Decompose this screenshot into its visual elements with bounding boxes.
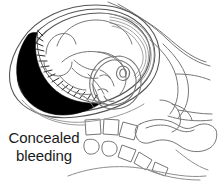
maternal-spine-vertebrae bbox=[84, 119, 168, 176]
fetus bbox=[44, 20, 132, 102]
caption-line-2: bleeding bbox=[0, 147, 88, 165]
medical-illustration-concealed-bleeding: Concealed bleeding bbox=[0, 0, 219, 190]
pelvic-bone bbox=[135, 100, 217, 152]
caption-line-1: Concealed bbox=[9, 129, 80, 146]
caption-concealed-bleeding: Concealed bleeding bbox=[0, 129, 88, 165]
